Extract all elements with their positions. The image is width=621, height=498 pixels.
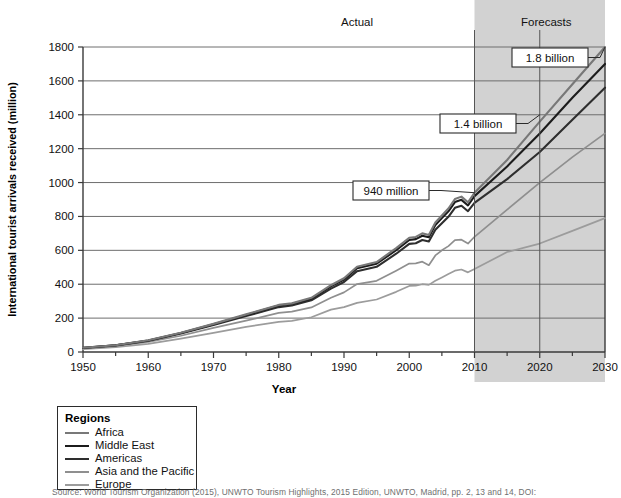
legend-item-label: Asia and the Pacific [95, 465, 194, 478]
legend-item-label: Middle East [95, 439, 154, 452]
y-tick-label: 1200 [48, 143, 74, 155]
chart-legend: Regions AfricaMiddle EastAmericasAsia an… [57, 406, 197, 490]
legend-title: Regions [65, 411, 189, 425]
actual-region-label: Actual [341, 16, 373, 28]
x-tick-label: 2010 [462, 361, 488, 373]
legend-swatch-icon [65, 471, 89, 473]
legend-item-label: Americas [95, 452, 142, 465]
legend-item-americas: Americas [65, 452, 189, 465]
y-tick-label: 1600 [48, 75, 74, 87]
x-tick-label: 1950 [70, 361, 96, 373]
legend-swatch-icon [65, 445, 89, 447]
y-tick-label: 200 [55, 312, 74, 324]
callout-label: 1.4 billion [454, 118, 503, 130]
forecasts-region-label: Forecasts [521, 16, 572, 28]
x-tick-label: 1970 [201, 361, 227, 373]
y-tick-label: 0 [68, 346, 74, 358]
x-axis-title: Year [272, 383, 297, 395]
callout-label: 940 million [364, 185, 419, 197]
x-tick-label: 1980 [266, 361, 292, 373]
x-tick-label: 2030 [592, 361, 618, 373]
y-tick-label: 400 [55, 278, 74, 290]
legend-item-middle-east: Middle East [65, 439, 189, 452]
legend-items: AfricaMiddle EastAmericasAsia and the Pa… [65, 426, 189, 491]
y-tick-label: 800 [55, 210, 74, 222]
legend-item-asia-and-the-pacific: Asia and the Pacific [65, 465, 189, 478]
x-tick-label: 1990 [331, 361, 357, 373]
y-tick-label: 1000 [48, 177, 74, 189]
callout-label: 1.8 billion [526, 52, 575, 64]
x-tick-label: 1960 [135, 361, 161, 373]
callout-leader-line [429, 191, 475, 193]
legend-item-africa: Africa [65, 426, 189, 439]
legend-swatch-icon [65, 484, 89, 486]
source-note: Source: World Tourism Organization (2015… [52, 487, 621, 497]
y-tick-label: 1800 [48, 41, 74, 53]
y-tick-label: 600 [55, 244, 74, 256]
legend-item-label: Africa [95, 426, 124, 439]
legend-swatch-icon [65, 458, 89, 460]
x-tick-label: 2020 [527, 361, 553, 373]
y-tick-label: 1400 [48, 109, 74, 121]
chart-figure: 0200400600800100012001400160018001950196… [0, 0, 621, 498]
y-axis-title: International tourist arrivals received … [6, 82, 18, 317]
legend-swatch-icon [65, 432, 89, 434]
x-tick-label: 2000 [396, 361, 422, 373]
